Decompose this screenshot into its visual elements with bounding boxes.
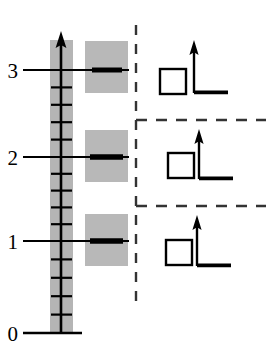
- figure-background: [0, 0, 269, 352]
- axis-tick-label-3: 3: [8, 59, 19, 83]
- axis-tick-label-0: 0: [8, 322, 19, 346]
- axis-tick-label-2: 2: [8, 146, 19, 170]
- energy-level-figure: 3 2 1 0: [0, 0, 269, 352]
- state-square-bottom: [166, 240, 192, 265]
- state-square-top: [160, 69, 186, 94]
- axis-tick-label-1: 1: [8, 230, 19, 254]
- figure-canvas: 3 2 1 0: [0, 0, 269, 352]
- state-square-middle: [168, 153, 194, 178]
- level-box-3: [85, 41, 128, 93]
